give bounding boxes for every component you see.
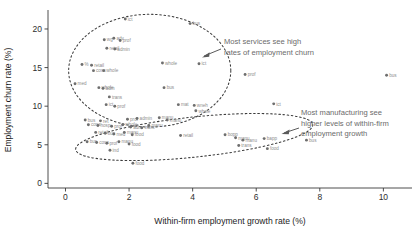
data-point — [84, 119, 87, 122]
data-point — [112, 37, 115, 40]
data-point — [90, 64, 93, 67]
point-label: retail — [94, 63, 104, 68]
data-point — [241, 139, 244, 142]
data-point — [131, 162, 134, 165]
data-point — [117, 140, 120, 143]
data-point — [94, 131, 97, 134]
y-tick-label: 10 — [33, 101, 43, 111]
data-point — [119, 39, 122, 42]
data-point — [97, 86, 100, 89]
data-point — [166, 119, 169, 122]
annotation-line: higher levels of within-firm — [301, 119, 389, 128]
point-label: wneh — [197, 103, 208, 108]
data-point — [128, 143, 131, 146]
point-label: ict — [276, 102, 281, 107]
data-point — [163, 86, 166, 89]
data-point — [158, 116, 161, 119]
point-label: prof — [248, 72, 257, 77]
scatter-chart-figure: ictbuswgadvprofretailadminwholeict%retai… — [0, 0, 420, 230]
data-point — [147, 124, 150, 127]
data-point — [161, 61, 164, 64]
annotations: Most services see highrates of employmen… — [202, 37, 389, 138]
data-point — [126, 118, 129, 121]
data-point — [179, 134, 182, 137]
data-point — [105, 47, 108, 50]
data-point — [86, 140, 89, 143]
data-point — [102, 87, 105, 90]
point-label: trans — [241, 143, 252, 148]
point-label: retail — [183, 133, 193, 138]
data-point — [74, 82, 77, 85]
point-label: ind — [113, 148, 120, 153]
data-point — [385, 74, 388, 77]
data-point — [96, 124, 99, 127]
point-label: prof — [109, 141, 118, 146]
point-label: bus — [389, 73, 397, 78]
point-label: % — [85, 62, 89, 67]
point-label: wg — [107, 37, 113, 42]
point-label: bus — [167, 85, 175, 90]
data-point — [87, 123, 90, 126]
data-point — [108, 95, 111, 98]
data-point — [198, 62, 201, 65]
y-tick-label: 5 — [37, 140, 42, 150]
point-label: prof — [123, 38, 132, 43]
y-tick-label: 15 — [33, 63, 43, 73]
manufacturing-annotation: Most manufacturing seehigher levels of w… — [282, 108, 389, 138]
point-label: bus — [193, 21, 201, 26]
data-point — [124, 17, 127, 20]
data-point — [102, 69, 105, 72]
point-label: ict — [202, 61, 207, 66]
x-tick-label: 8 — [317, 192, 322, 202]
data-point — [189, 22, 192, 25]
annotation-line: Most manufacturing see — [301, 108, 382, 117]
y-tick-label: 20 — [33, 24, 43, 34]
plot-area: ictbuswgadvprofretailadminwholeict%retai… — [0, 0, 420, 230]
annotation-line: employment growth — [301, 129, 367, 138]
point-label: whole — [106, 68, 118, 73]
data-point — [105, 103, 108, 106]
point-label: manu — [170, 118, 182, 123]
data-point — [136, 117, 139, 120]
point-label: bus — [309, 138, 317, 143]
data-point — [81, 63, 84, 66]
x-tick-label: 4 — [190, 192, 195, 202]
point-label: manu — [245, 138, 257, 143]
y-axis-title: Employment churn rate (%) — [3, 48, 13, 153]
point-label: whole — [198, 109, 210, 114]
data-point — [177, 103, 180, 106]
data-point — [140, 126, 143, 129]
data-point — [109, 149, 112, 152]
point-label: retail — [98, 130, 108, 135]
point-label: bapp — [267, 136, 278, 141]
point-label: admin — [117, 47, 130, 52]
point-label: trans — [112, 95, 123, 100]
data-point — [121, 123, 124, 126]
data-point — [123, 131, 126, 134]
point-label: bopp — [228, 132, 239, 137]
point-label: food — [270, 146, 279, 151]
x-tick-label: 10 — [379, 192, 389, 202]
data-point — [112, 133, 115, 136]
point-label: ict — [128, 17, 133, 22]
data-point — [95, 141, 98, 144]
point-label: adm — [106, 86, 115, 91]
point-label: food — [132, 142, 141, 147]
point-label: mat — [181, 102, 189, 107]
data-point — [92, 69, 95, 72]
data-point — [103, 38, 106, 41]
annotation-line: Most services see high — [224, 37, 301, 46]
annotation-arrowhead — [202, 52, 210, 57]
data-point — [234, 136, 237, 139]
data-point — [194, 109, 197, 112]
data-point — [266, 147, 269, 150]
data-point — [193, 104, 196, 107]
data-point — [129, 126, 132, 129]
point-label: ict — [109, 102, 114, 107]
services-annotation: Most services see highrates of employmen… — [202, 37, 314, 57]
x-tick-label: 0 — [63, 192, 68, 202]
x-tick-label: 2 — [127, 192, 132, 202]
data-point — [113, 105, 116, 108]
data-point — [110, 125, 113, 128]
annotation-arrowhead — [282, 130, 290, 135]
